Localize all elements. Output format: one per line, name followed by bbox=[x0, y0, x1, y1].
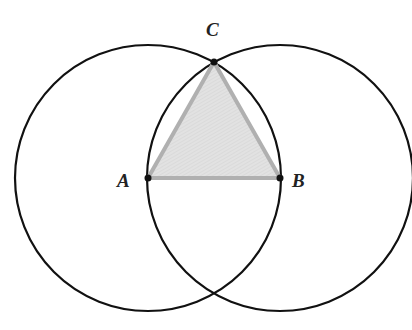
point-a bbox=[145, 175, 152, 182]
construction-diagram: A B C bbox=[0, 0, 412, 330]
point-c bbox=[211, 59, 218, 66]
triangle-abc bbox=[148, 62, 280, 178]
label-b: B bbox=[291, 170, 305, 191]
label-c: C bbox=[206, 19, 219, 40]
point-b bbox=[277, 175, 284, 182]
label-a: A bbox=[116, 170, 130, 191]
